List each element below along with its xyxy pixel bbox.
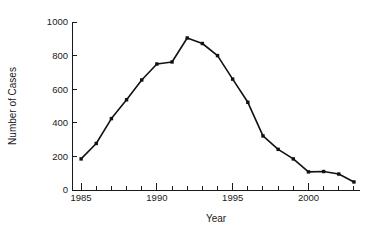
data-point-marker <box>307 170 310 173</box>
data-point-marker <box>170 60 173 63</box>
x-tick-label: 1985 <box>71 192 92 203</box>
x-tick-label: 1990 <box>146 192 167 203</box>
chart-background <box>0 0 378 228</box>
x-axis-title: Year <box>206 213 227 224</box>
data-point-marker <box>231 77 234 80</box>
data-point-marker <box>110 117 113 120</box>
data-point-marker <box>261 134 264 137</box>
chart-figure: 02004006008001000 1985199019952000 Year … <box>0 0 378 228</box>
x-tick-label: 2000 <box>298 192 319 203</box>
data-point-marker <box>79 157 82 160</box>
data-point-marker <box>155 62 158 65</box>
data-point-marker <box>322 170 325 173</box>
y-tick-label: 200 <box>52 151 68 162</box>
y-tick-label: 400 <box>52 117 68 128</box>
y-tick-label: 0 <box>63 184 68 195</box>
data-point-marker <box>186 36 189 39</box>
line-chart: 02004006008001000 1985199019952000 Year … <box>0 0 378 228</box>
data-point-marker <box>95 142 98 145</box>
y-axis-title: Number of Cases <box>7 67 18 145</box>
data-point-marker <box>352 180 355 183</box>
data-point-marker <box>140 78 143 81</box>
data-point-marker <box>246 101 249 104</box>
y-tick-label: 1000 <box>47 16 68 27</box>
data-point-marker <box>125 98 128 101</box>
data-point-marker <box>292 157 295 160</box>
y-tick-label: 800 <box>52 50 68 61</box>
y-tick-label: 600 <box>52 84 68 95</box>
data-point-marker <box>337 172 340 175</box>
x-tick-label: 1995 <box>222 192 243 203</box>
data-point-marker <box>216 54 219 57</box>
data-point-marker <box>276 148 279 151</box>
data-point-marker <box>201 42 204 45</box>
